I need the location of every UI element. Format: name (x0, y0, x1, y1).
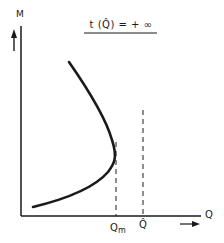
diagram-svg (0, 0, 224, 243)
right-arrow-icon (180, 221, 200, 227)
up-arrow-icon (11, 29, 17, 51)
qhat-label: Q̂ (139, 220, 147, 230)
diagram: t (Q̂) = + ∞ M Q Qm Q̂ (0, 0, 224, 243)
diagram-title: t (Q̂) = + ∞ (82, 20, 160, 30)
y-axis-label: M (16, 10, 24, 19)
qm-label-main: Q (110, 222, 118, 233)
m-q-curve (33, 62, 115, 207)
qm-label-sub: m (118, 226, 126, 235)
qm-label: Qm (110, 223, 126, 235)
x-axis-label: Q (205, 210, 213, 220)
